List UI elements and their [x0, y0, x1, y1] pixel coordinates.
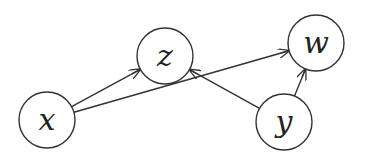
edge-y-to-z: [189, 70, 259, 109]
node-y: y: [256, 94, 312, 150]
node-z: z: [137, 28, 193, 84]
directed-graph: xzwy: [0, 0, 365, 158]
edge-y-to-w: [295, 69, 306, 96]
edge-x-to-z: [72, 69, 141, 106]
node-w: w: [288, 15, 344, 71]
node-x: x: [19, 92, 75, 148]
node-label: w: [303, 25, 329, 60]
nodes: xzwy: [19, 15, 344, 150]
node-label: y: [274, 104, 294, 139]
node-label: x: [39, 102, 56, 137]
node-label: z: [156, 38, 173, 73]
